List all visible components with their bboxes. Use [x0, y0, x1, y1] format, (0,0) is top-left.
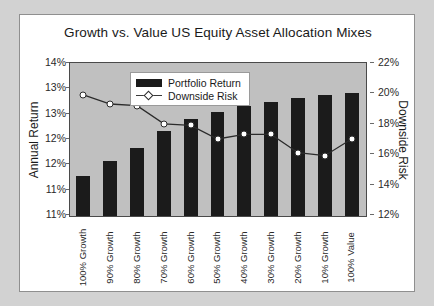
plot-area: Portfolio Return Downside Risk	[69, 62, 367, 217]
line-marker	[214, 136, 221, 143]
right-axis-tick	[370, 184, 374, 185]
right-axis-tick	[370, 153, 374, 154]
line-marker	[268, 131, 275, 138]
right-axis-tick	[370, 123, 374, 124]
right-axis-tick	[370, 214, 374, 215]
left-axis-tick-label: 11%	[24, 183, 66, 195]
category-label: 90% Growth	[102, 220, 116, 295]
screenshot-frame: Growth vs. Value US Equity Asset Allocat…	[0, 0, 434, 306]
right-axis-tick	[370, 62, 374, 63]
category-label: 60% Growth	[183, 220, 197, 295]
left-axis-tick-label: 12%	[24, 132, 66, 144]
category-label-text: 70% Growth	[157, 231, 168, 283]
category-label-text: 90% Growth	[104, 231, 115, 283]
category-label-text: 50% Growth	[211, 231, 222, 283]
chart-legend: Portfolio Return Downside Risk	[130, 72, 250, 106]
category-label-text: 20% Growth	[291, 231, 302, 283]
category-label-text: 100% Growth	[77, 229, 88, 287]
category-axis: 100% Growth90% Growth80% Growth70% Growt…	[69, 220, 367, 295]
line-marker	[294, 149, 301, 156]
right-axis-tick-label: 20%	[378, 86, 418, 98]
category-label-text: 80% Growth	[131, 231, 142, 283]
line-marker	[80, 91, 87, 98]
line-marker	[321, 152, 328, 159]
left-axis-tick-label: 11%	[24, 208, 66, 220]
line-marker	[348, 136, 355, 143]
legend-item-portfolio-return: Portfolio Return	[136, 76, 241, 89]
right-axis-tick-label: 16%	[378, 147, 418, 159]
right-axis-tick	[370, 92, 374, 93]
category-label-text: 60% Growth	[184, 231, 195, 283]
left-axis-tick-label: 13%	[24, 107, 66, 119]
category-label-text: 100% Value	[345, 232, 356, 283]
chart-title: Growth vs. Value US Equity Asset Allocat…	[20, 25, 416, 40]
legend-item-downside-risk: Downside Risk	[136, 89, 241, 102]
legend-line-marker-icon	[136, 92, 162, 100]
legend-label: Portfolio Return	[168, 77, 241, 89]
category-label: 40% Growth	[236, 220, 250, 295]
left-axis-tick-label: 12%	[24, 157, 66, 169]
right-axis-tick-label: 22%	[378, 56, 418, 68]
category-label-text: 30% Growth	[265, 231, 276, 283]
category-label: 10% Growth	[317, 220, 331, 295]
left-axis-tick-label: 13%	[24, 81, 66, 93]
line-marker	[241, 131, 248, 138]
category-label: 50% Growth	[210, 220, 224, 295]
right-axis-tick-label: 18%	[378, 117, 418, 129]
right-axis-tick-label: 12%	[378, 208, 418, 220]
category-label: 100% Growth	[75, 220, 89, 295]
category-label-text: 40% Growth	[238, 231, 249, 283]
category-label: 100% Value	[344, 220, 358, 295]
line-marker	[187, 122, 194, 129]
chart-card: Growth vs. Value US Equity Asset Allocat…	[19, 14, 415, 292]
category-label: 80% Growth	[129, 220, 143, 295]
category-label: 70% Growth	[156, 220, 170, 295]
left-axis-tick-label: 14%	[24, 56, 66, 68]
legend-label: Downside Risk	[168, 90, 237, 102]
right-axis-tick-label: 14%	[378, 178, 418, 190]
category-label: 20% Growth	[290, 220, 304, 295]
right-axis: 22%20%18%16%14%12%	[370, 62, 416, 217]
legend-swatch-icon	[136, 79, 162, 87]
line-marker	[107, 101, 114, 108]
category-label: 30% Growth	[263, 220, 277, 295]
category-label-text: 10% Growth	[318, 231, 329, 283]
line-marker	[160, 120, 167, 127]
left-axis: 14%13%13%12%12%11%11%	[20, 62, 66, 217]
